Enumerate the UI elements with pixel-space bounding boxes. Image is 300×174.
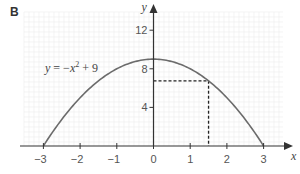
x-tick-label: 3 — [261, 153, 267, 165]
equation-annotation: y = −x2 + 9 — [44, 60, 98, 75]
equation-eq-minus: = − — [50, 61, 70, 75]
y-ticks: 4812 — [135, 24, 153, 113]
x-tick-label: −2 — [71, 153, 84, 165]
x-tick-label: −3 — [34, 153, 47, 165]
y-tick-label: 8 — [141, 63, 147, 75]
y-axis-label: y — [141, 0, 148, 14]
x-tick-label: 1 — [187, 153, 193, 165]
x-tick-label: −1 — [108, 153, 121, 165]
y-axis-arrow — [150, 4, 158, 13]
chart: B −3−2−10123 4812 x y y = −x2 + 9 — [0, 0, 300, 174]
y-tick-label: 12 — [135, 24, 147, 36]
x-tick-label: 2 — [224, 153, 230, 165]
equation-constant: + 9 — [79, 61, 98, 75]
dashed-guides — [154, 81, 209, 146]
x-axis-label: x — [290, 149, 297, 163]
panel-label: B — [10, 5, 19, 19]
x-tick-label: 0 — [150, 153, 156, 165]
y-tick-label: 4 — [141, 101, 147, 113]
